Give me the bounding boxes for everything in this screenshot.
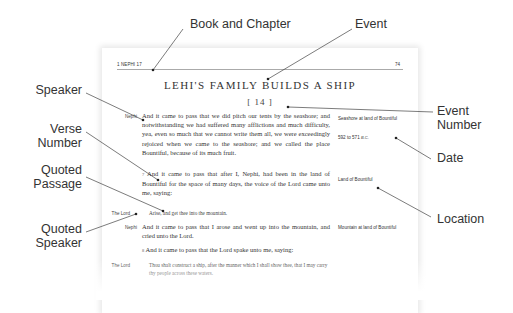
annotation-quoted-passage: Quoted Passage	[10, 163, 82, 191]
verse-text: And it came to pass that the Lord spake …	[146, 246, 294, 253]
verse-number: 7	[142, 172, 144, 177]
annotation-line: Passage	[10, 177, 82, 191]
book-chapter-header: 1 NEPHI 17	[117, 62, 142, 67]
annotation-line: Number	[437, 118, 481, 132]
header-rule	[117, 69, 403, 70]
date-range: 592 to 571	[338, 135, 360, 140]
page-number: 74	[395, 62, 400, 67]
annotation-verse-number: Verse Number	[10, 122, 82, 150]
verse-paragraph: 8 And it came to pass that the Lord spak…	[142, 245, 332, 255]
annotation-line: Event	[437, 104, 481, 118]
annotation-speaker: Speaker	[10, 83, 82, 97]
annotation-book-and-chapter: Book and Chapter	[190, 17, 291, 31]
location-label: Land of Bountiful	[338, 177, 400, 183]
location-label: Mountain at land of Bountiful	[338, 225, 400, 231]
verse-text: And it came to pass that after I, Nephi,…	[142, 170, 330, 196]
verse-paragraph: 7 And it came to pass that after I, Neph…	[142, 169, 330, 198]
annotation-line: Verse	[10, 122, 82, 136]
annotation-event-number: Event Number	[437, 104, 481, 132]
event-number: [ 14 ]	[117, 97, 403, 107]
annotation-quoted-speaker: Quoted Speaker	[10, 222, 82, 250]
quoted-passage: Arise, and get thee into the mountain.	[149, 210, 329, 218]
speaker-label: Nephi	[92, 225, 137, 230]
verse-paragraph: And it came to pass that we did pitch ou…	[142, 111, 330, 157]
quoted-speaker-label: The Lord	[85, 211, 130, 216]
page-fade	[96, 260, 426, 300]
date-label: 592 to 571 B.C.	[338, 135, 400, 141]
annotation-line: Quoted	[10, 222, 82, 236]
annotation-line: Speaker	[10, 236, 82, 250]
annotation-date: Date	[437, 151, 463, 165]
verse-paragraph: And it came to pass that I arose and wen…	[142, 222, 330, 240]
location-label: Seashore at land of Bountiful	[338, 116, 400, 122]
event-title: LEHI'S FAMILY BUILDS A SHIP	[117, 79, 403, 91]
annotation-location: Location	[437, 212, 484, 226]
speaker-label: Nephi	[92, 114, 137, 119]
annotation-line: Number	[10, 136, 82, 150]
annotation-event: Event	[355, 17, 387, 31]
verse-number: 8	[142, 248, 144, 253]
annotation-line: Quoted	[10, 163, 82, 177]
date-era: B.C.	[361, 135, 369, 140]
